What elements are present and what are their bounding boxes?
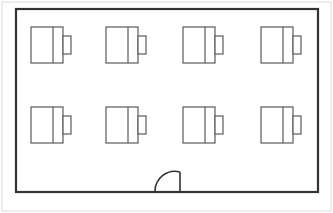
chair-symbol (63, 36, 71, 54)
chair-symbol (138, 116, 146, 134)
desk-body (31, 27, 63, 63)
chair-symbol (215, 116, 223, 134)
desk-body (261, 27, 293, 63)
desk-body (31, 107, 63, 143)
desk-body (261, 107, 293, 143)
floor-plan-canvas (0, 0, 333, 213)
desk-body (183, 27, 215, 63)
desk-body (106, 107, 138, 143)
desk-body (183, 107, 215, 143)
desk-body (106, 27, 138, 63)
chair-symbol (63, 116, 71, 134)
chair-symbol (293, 36, 301, 54)
floor-plan-drawing (0, 0, 333, 213)
chair-symbol (138, 36, 146, 54)
chair-symbol (293, 116, 301, 134)
chair-symbol (215, 36, 223, 54)
